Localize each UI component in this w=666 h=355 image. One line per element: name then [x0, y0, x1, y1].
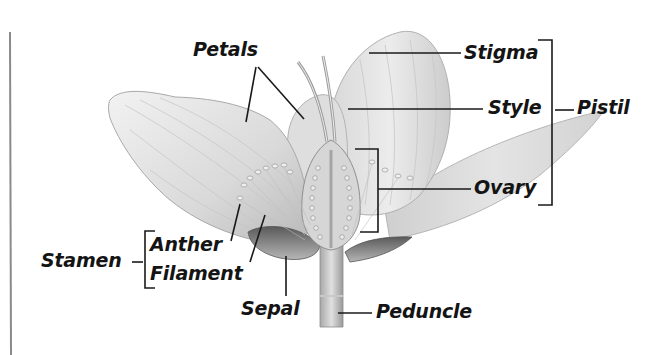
- petal-left: [109, 91, 311, 245]
- sepal-right: [345, 237, 412, 262]
- flower-illustration: [0, 0, 666, 355]
- label-stigma: Stigma: [464, 43, 538, 62]
- label-filament: Filament: [150, 264, 243, 283]
- label-pistil: Pistil: [577, 98, 630, 117]
- label-anther: Anther: [150, 235, 222, 254]
- margin-rule: [10, 32, 11, 355]
- flower-diagram: Petals Stigma Style Pistil Ovary Stamen …: [0, 0, 666, 355]
- label-sepal: Sepal: [241, 299, 300, 318]
- label-petals: Petals: [193, 40, 258, 59]
- label-ovary: Ovary: [474, 178, 536, 197]
- label-style: Style: [488, 98, 542, 117]
- label-stamen: Stamen: [41, 251, 122, 270]
- label-peduncle: Peduncle: [376, 302, 472, 321]
- peduncle-stem: [320, 240, 343, 327]
